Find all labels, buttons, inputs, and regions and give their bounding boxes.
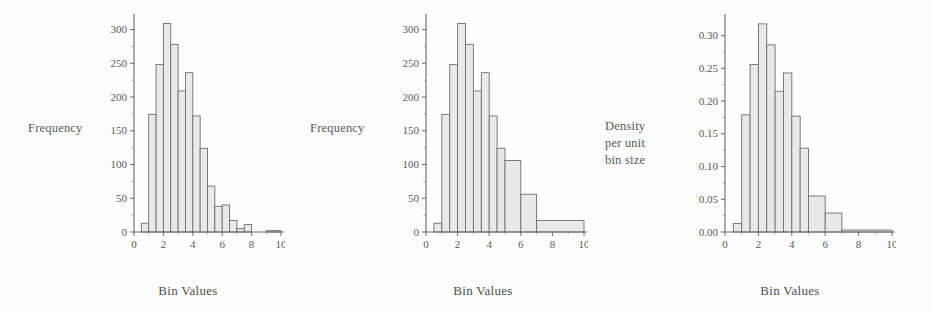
histogram-bar	[178, 91, 185, 232]
histogram-bar	[809, 196, 826, 232]
y-tick-label: 200	[403, 91, 420, 103]
histogram-bar	[750, 64, 758, 232]
figure-canvas: Frequency 0501001502002503000246810 Bin …	[0, 0, 932, 312]
x-tick-label: 2	[455, 238, 461, 250]
x-tick-label: 6	[822, 238, 828, 250]
y-ticks-group: 0.000.050.100.150.200.250.30	[699, 29, 725, 237]
histogram-bar	[521, 194, 537, 232]
y-tick-label: 200	[111, 91, 128, 103]
histogram-svg: 0.000.050.100.150.200.250.300246810	[681, 10, 896, 260]
histogram-bar	[481, 73, 489, 232]
y-tick-label: 250	[403, 57, 420, 69]
x-axis-label: Bin Values	[118, 283, 258, 299]
histogram-bar	[163, 23, 170, 232]
histogram-panel-frequency-fine: Frequency 0501001502002503000246810 Bin …	[0, 0, 300, 312]
y-tick-label: 0.05	[699, 193, 719, 205]
y-tick-label: 150	[111, 124, 128, 136]
histogram-bar	[537, 221, 584, 232]
x-tick-label: 8	[249, 238, 255, 250]
histogram-bar	[497, 148, 505, 232]
y-tick-label: 0	[414, 226, 420, 238]
x-tick-label: 8	[550, 238, 556, 250]
x-axis-label: Bin Values	[408, 283, 558, 299]
y-tick-label: 0.25	[699, 62, 719, 74]
histogram-bar	[230, 221, 237, 232]
x-ticks-group: 0246810	[722, 232, 896, 250]
y-tick-label: 150	[403, 124, 420, 136]
histogram-bar	[489, 116, 497, 232]
histogram-bar	[244, 225, 251, 232]
histogram-bar	[775, 91, 783, 232]
y-axis-label-line: bin size	[605, 152, 683, 169]
bars-group	[434, 23, 584, 232]
histogram-bar	[200, 148, 207, 232]
histogram-bar	[215, 206, 222, 232]
y-tick-label: 0.20	[699, 95, 719, 107]
y-tick-label: 100	[111, 158, 128, 170]
y-tick-label: 0.15	[699, 127, 719, 139]
y-ticks-group: 050100150200250300	[111, 23, 135, 238]
histogram-bar	[208, 186, 215, 232]
histogram-bar	[450, 65, 458, 232]
y-axis-label-line: per unit	[605, 135, 683, 152]
bars-group	[141, 23, 281, 232]
histogram-bar	[171, 44, 178, 232]
histogram-bar	[783, 73, 791, 232]
y-tick-label: 50	[116, 192, 128, 204]
bars-group	[733, 24, 892, 232]
histogram-bar	[222, 205, 229, 232]
histogram-bar	[800, 148, 808, 232]
histogram-bar	[466, 44, 474, 232]
histogram-bar	[434, 223, 442, 232]
histogram-bar	[733, 223, 741, 232]
histogram-svg: 0501001502002503000246810	[100, 10, 285, 260]
x-tick-label: 10	[887, 238, 897, 250]
histogram-panel-frequency-coarse: Frequency 0501001502002503000246810 Bin …	[300, 0, 605, 312]
histogram-bar	[193, 116, 200, 232]
y-tick-label: 0	[122, 226, 128, 238]
x-tick-label: 0	[423, 238, 429, 250]
y-axis-label-line: Density	[605, 118, 683, 135]
histogram-bar	[505, 160, 521, 232]
y-tick-label: 300	[111, 23, 128, 35]
y-tick-label: 250	[111, 57, 128, 69]
histogram-bar	[141, 223, 148, 232]
x-tick-label: 0	[131, 238, 137, 250]
histogram-bar	[185, 73, 192, 232]
plot-area: 0501001502002503000246810	[100, 10, 285, 260]
plot-area: 0.000.050.100.150.200.250.300246810	[681, 10, 896, 260]
histogram-bar	[458, 23, 466, 232]
x-tick-label: 6	[219, 238, 225, 250]
histogram-bar	[767, 45, 775, 232]
histogram-svg: 0501001502002503000246810	[388, 10, 588, 260]
y-tick-label: 300	[403, 23, 420, 35]
x-ticks-group: 0246810	[423, 232, 588, 250]
x-tick-label: 2	[756, 238, 762, 250]
x-tick-label: 0	[722, 238, 728, 250]
histogram-bar	[758, 24, 766, 232]
y-tick-label: 100	[403, 158, 420, 170]
histogram-bar	[825, 213, 842, 232]
histogram-bar	[149, 115, 156, 232]
x-tick-label: 4	[486, 238, 492, 250]
histogram-bar	[442, 115, 450, 232]
y-axis-label: Densityper unitbin size	[605, 118, 683, 169]
y-tick-label: 0.00	[699, 226, 719, 238]
y-tick-label: 50	[408, 192, 420, 204]
x-ticks-group: 0246810	[131, 232, 285, 250]
x-tick-label: 10	[579, 238, 589, 250]
x-axis-label: Bin Values	[715, 283, 865, 299]
x-tick-label: 6	[518, 238, 524, 250]
y-tick-label: 0.30	[699, 29, 719, 41]
histogram-bar	[742, 115, 750, 232]
histogram-panel-density: Densityper unitbin size 0.000.050.100.15…	[605, 0, 932, 312]
plot-area: 0501001502002503000246810	[388, 10, 588, 260]
y-ticks-group: 050100150200250300	[403, 23, 427, 238]
histogram-bar	[792, 116, 800, 232]
x-tick-label: 8	[856, 238, 862, 250]
histogram-bar	[473, 91, 481, 232]
y-tick-label: 0.10	[699, 160, 719, 172]
histogram-bar	[156, 65, 163, 232]
x-tick-label: 4	[789, 238, 795, 250]
x-tick-label: 2	[161, 238, 167, 250]
